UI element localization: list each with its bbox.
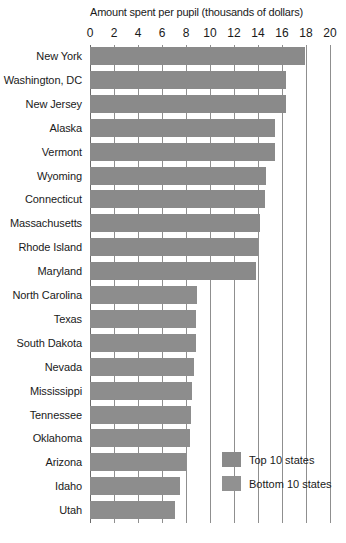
category-label: Alaska [0,119,82,137]
bar-row [90,190,265,208]
category-label: Utah [0,501,82,519]
bar [90,429,190,447]
x-tick-label: 20 [323,26,336,40]
category-label: Rhode Island [0,238,82,256]
bar [90,382,192,400]
bar-row [90,477,180,495]
bar-row [90,334,196,352]
bar-row [90,119,275,137]
category-label: North Carolina [0,286,82,304]
x-tick-label: 6 [159,26,166,40]
category-label: Idaho [0,477,82,495]
legend-item: Top 10 states [222,452,332,467]
category-label: Connecticut [0,190,82,208]
x-axis-tick-labels: 02468101214161820 [0,26,346,42]
category-label: South Dakota [0,334,82,352]
bar [90,119,275,137]
bar-row [90,238,258,256]
category-label: Washington, DC [0,71,82,89]
bar [90,310,196,328]
bar-row [90,262,256,280]
category-label: Maryland [0,262,82,280]
bar [90,190,265,208]
bar [90,71,286,89]
chart-axis-title: Amount spent per pupil (thousands of dol… [90,6,340,18]
legend-label: Bottom 10 states [249,478,332,490]
bar [90,358,194,376]
x-tick-label: 4 [135,26,142,40]
bar [90,477,180,495]
bar [90,95,286,113]
category-label: Massachusetts [0,214,82,232]
bar-row [90,429,190,447]
bar-row [90,71,286,89]
bar-row [90,286,197,304]
category-label: Tennessee [0,406,82,424]
bar [90,143,275,161]
bar [90,334,196,352]
category-label: Arizona [0,453,82,471]
x-tick-label: 14 [251,26,264,40]
bar [90,406,191,424]
bar-chart: Amount spent per pupil (thousands of dol… [0,0,346,543]
bar-row [90,310,196,328]
x-tick-label: 16 [275,26,288,40]
x-tick-label: 2 [111,26,118,40]
bar [90,47,305,65]
category-label: Wyoming [0,167,82,185]
category-label: Nevada [0,358,82,376]
bar-row [90,214,260,232]
category-label: Oklahoma [0,429,82,447]
bar-row [90,95,286,113]
bar-row [90,143,275,161]
category-label: Mississippi [0,382,82,400]
category-label: New Jersey [0,95,82,113]
legend-label: Top 10 states [249,454,314,466]
category-label: Texas [0,310,82,328]
bar [90,501,175,519]
bar-row [90,47,305,65]
bar [90,262,256,280]
bar [90,214,260,232]
bar-row [90,167,266,185]
bar-row [90,501,175,519]
category-label: Vermont [0,143,82,161]
bar [90,238,258,256]
legend-swatch-icon [222,452,241,467]
x-tick-label: 18 [299,26,312,40]
bar [90,167,266,185]
bar-row [90,453,186,471]
x-tick-label: 0 [87,26,94,40]
legend-item: Bottom 10 states [222,476,332,491]
bar-row [90,358,194,376]
x-tick-label: 10 [203,26,216,40]
x-tick-label: 8 [183,26,190,40]
bar [90,453,186,471]
bar-row [90,406,191,424]
x-tick-label: 12 [227,26,240,40]
bar-row [90,382,192,400]
chart-legend: Top 10 statesBottom 10 states [222,452,332,491]
category-label: New York [0,47,82,65]
bar [90,286,197,304]
legend-swatch-icon [222,476,241,491]
